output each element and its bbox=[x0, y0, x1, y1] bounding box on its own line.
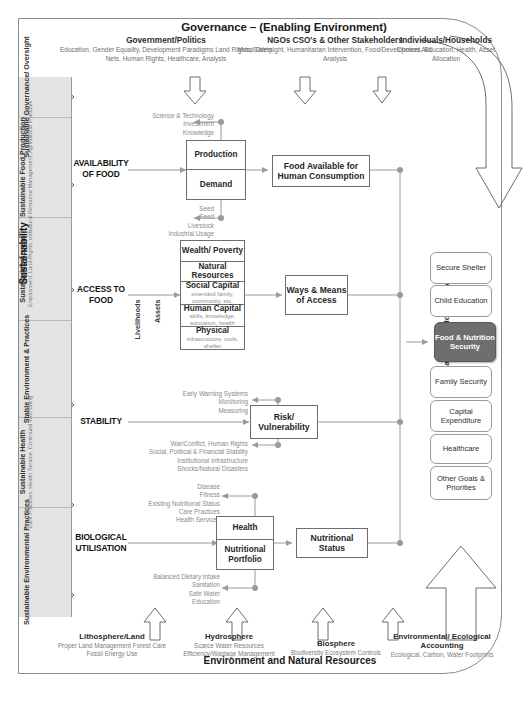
health-label: Health bbox=[232, 523, 257, 532]
stability-inputs-note: Early Warning Systems Monitoring Measuri… bbox=[152, 390, 248, 415]
objective-label: Food & Nutrition Security bbox=[435, 333, 495, 351]
asset-sub: infrastructure, tools, shelter bbox=[181, 336, 244, 350]
production-label: Production bbox=[194, 150, 237, 159]
sustainability-band-access: Sustainable Access Employment, Land Righ… bbox=[0, 217, 52, 320]
stage-label-stability: STABILITY bbox=[72, 416, 130, 427]
objective-label: Family Security bbox=[435, 377, 487, 386]
asset-row-wealth: Wealth/ Poverty bbox=[181, 241, 244, 262]
nutritional-portfolio-label: Nutritional Portfolio bbox=[217, 545, 273, 564]
environment-heading: Lithosphere/Land bbox=[52, 633, 172, 642]
asset-row-natural-resources: Natural Resources bbox=[181, 262, 244, 283]
objective-healthcare: Healthcare bbox=[430, 434, 492, 464]
environment-heading: Biosphere bbox=[290, 640, 382, 649]
asset-sub: extended family, community, etc. bbox=[181, 291, 244, 305]
governance-band: Governance – (Enabling Environment) Gove… bbox=[19, 19, 481, 77]
ways-means-label: Ways & Means of Access bbox=[286, 285, 347, 306]
objective-label: Child Education bbox=[434, 296, 487, 305]
nutritional-status-box: Nutritional Status bbox=[296, 528, 368, 558]
governance-detail: Choices, Education, Health, Asset Alloca… bbox=[387, 46, 505, 63]
nutritional-status-label: Nutritional Status bbox=[297, 533, 367, 554]
production-demand-stack: Production Demand bbox=[186, 140, 246, 200]
stage-label-access: ACCESS TO FOOD bbox=[72, 284, 130, 305]
ways-means-access-box: Ways & Means of Access bbox=[285, 275, 348, 315]
availability-outputs-note: Seed Feed Livestock Industrial Usage bbox=[126, 205, 214, 238]
stage-label-biological: BIOLOGICAL UTILISATION bbox=[70, 532, 132, 553]
band-detail: Natural Resource Management, Agricultura… bbox=[27, 100, 34, 233]
asset-row-social-capital: Social Capital extended family, communit… bbox=[181, 282, 244, 305]
governance-column-individuals: Individuals/Households Choices, Educatio… bbox=[387, 36, 505, 63]
diagram-canvas: Governance – (Enabling Environment) Gove… bbox=[0, 0, 526, 708]
livelihood-assets-stack: Wealth/ Poverty Natural Resources Social… bbox=[180, 240, 245, 350]
objective-secure-shelter: Secure Shelter bbox=[430, 252, 492, 284]
objective-capital-expenditure: Capital Expenditure bbox=[430, 400, 492, 432]
objective-label: Secure Shelter bbox=[436, 263, 486, 272]
risk-vulnerability-label: Risk/ Vulnerability bbox=[251, 412, 317, 433]
band-title: Sustainable Environmental Practices bbox=[22, 499, 31, 625]
asset-label: Natural Resources bbox=[181, 262, 244, 281]
health-box: Health bbox=[217, 517, 273, 540]
objective-label: Capital Expenditure bbox=[431, 407, 491, 425]
biological-inputs-note: Disease Fitness Existing Nutritional Sta… bbox=[128, 483, 220, 524]
band-title: Sustainable Food Production bbox=[18, 100, 27, 233]
production-box: Production bbox=[187, 141, 245, 170]
asset-label: Physical bbox=[196, 326, 229, 335]
objective-label: Healthcare bbox=[443, 444, 480, 453]
sustainability-band-environmental-practices: Sustainable Environmental Practices bbox=[0, 507, 52, 617]
availability-inputs-note: Science & Technology Investment Knowledg… bbox=[132, 112, 214, 137]
outer-frame bbox=[18, 18, 502, 674]
assets-caption: Assets bbox=[153, 300, 162, 324]
asset-row-physical: Physical infrastructure, tools, shelter bbox=[181, 327, 244, 349]
sustainability-band-food-production: Sustainable Food Production Natural Reso… bbox=[0, 117, 52, 217]
environment-title: Environment and Natural Resources bbox=[150, 655, 430, 666]
environment-heading: Environmental/ Ecological Accounting bbox=[386, 633, 498, 651]
sustainability-band-health: Sustainable Health Care Practices, Healt… bbox=[0, 417, 52, 507]
governance-title: Governance – (Enabling Environment) bbox=[119, 21, 449, 33]
band-detail: Employment, Land Rights, etc. bbox=[27, 230, 34, 306]
demand-box: Demand bbox=[187, 170, 245, 199]
objective-food-nutrition-security: Food & Nutrition Security bbox=[434, 322, 496, 362]
asset-row-human-capital: Human Capital skills, knowledge, educati… bbox=[181, 305, 244, 328]
stability-factors-note: War/Conflict, Human Rights Social, Polit… bbox=[108, 440, 248, 473]
objective-family-security: Family Security bbox=[430, 366, 492, 398]
environment-heading: Hydrosphere bbox=[168, 633, 290, 642]
biological-practices-note: Balanced Dietary Intake Sanitation Safe … bbox=[118, 573, 220, 606]
objective-label: Other Goals & Priorities bbox=[431, 474, 491, 492]
food-available-label: Food Available for Human Consumption bbox=[273, 161, 369, 182]
risk-vulnerability-box: Risk/ Vulnerability bbox=[250, 405, 318, 439]
livelihoods-caption: Livelihoods bbox=[133, 300, 142, 340]
demand-label: Demand bbox=[200, 180, 232, 189]
asset-label: Wealth/ Poverty bbox=[182, 246, 243, 255]
objective-child-education: Child Education bbox=[430, 285, 492, 317]
asset-sub: skills, knowledge, education, health bbox=[181, 313, 244, 327]
governance-heading: Individuals/Households bbox=[387, 36, 505, 45]
asset-label: Social Capital bbox=[186, 281, 240, 290]
health-nutrition-stack: Health Nutritional Portfolio bbox=[216, 516, 274, 570]
nutritional-portfolio-box: Nutritional Portfolio bbox=[217, 540, 273, 569]
asset-label: Human Capital bbox=[184, 304, 241, 313]
food-available-box: Food Available for Human Consumption bbox=[272, 155, 370, 187]
objective-other-goals: Other Goals & Priorities bbox=[430, 466, 492, 500]
stage-label-availability: AVAILABILITY OF FOOD bbox=[72, 158, 130, 179]
band-title: Sustainable Access bbox=[18, 230, 27, 306]
